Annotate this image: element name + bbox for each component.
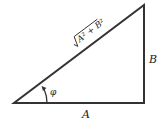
hypotenuse-label: A² + B² [74,17,107,45]
angle-label: φ [50,87,57,97]
angle-arc-icon [44,89,47,103]
triangle-outline [14,5,144,103]
right-triangle-diagram: φ A B A² + B² [0,0,165,127]
hypotenuse-label-group: A² + B² [70,17,107,48]
height-label: B [148,53,157,66]
base-label: A [81,108,90,121]
